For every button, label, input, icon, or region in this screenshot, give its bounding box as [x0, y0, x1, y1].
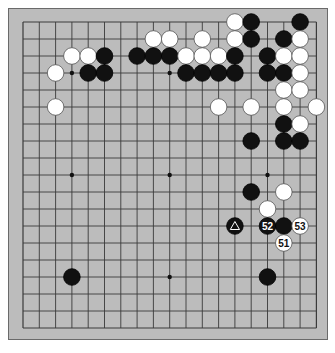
black-stone: [292, 133, 309, 150]
white-stone: [292, 82, 309, 99]
move-number-label: 52: [262, 221, 274, 232]
star-point: [168, 275, 172, 279]
star-point: [168, 173, 172, 177]
star-point: [70, 71, 74, 75]
board-grid: 525351: [1, 1, 335, 353]
white-stone: [194, 48, 211, 65]
black-stone: [276, 65, 293, 82]
black-stone: [243, 133, 260, 150]
white-stone: [80, 48, 97, 65]
white-stone: [210, 99, 227, 116]
white-stone: [308, 99, 325, 116]
black-stone: [145, 48, 162, 65]
star-point: [265, 173, 269, 177]
black-stone: [259, 65, 276, 82]
black-stone: [276, 133, 293, 150]
star-point: [168, 71, 172, 75]
white-stone: [47, 65, 64, 82]
move-number-label: 51: [278, 238, 290, 249]
white-stone: [276, 48, 293, 65]
black-stone: [227, 218, 244, 235]
white-stone: [227, 31, 244, 48]
white-stone: [243, 99, 260, 116]
black-stone: [276, 218, 293, 235]
black-stone: [80, 65, 97, 82]
black-stone: [161, 48, 178, 65]
white-stone: [64, 48, 81, 65]
black-stone: [259, 269, 276, 286]
white-stone: [194, 31, 211, 48]
white-stone: [47, 99, 64, 116]
black-stone: [243, 184, 260, 201]
black-stone: [96, 65, 113, 82]
black-stone: [243, 14, 260, 31]
white-stone: [292, 116, 309, 133]
white-stone: [145, 31, 162, 48]
white-stone: [178, 48, 195, 65]
black-stone: [243, 31, 260, 48]
white-stone: [276, 82, 293, 99]
white-stone: [276, 99, 293, 116]
black-stone: [227, 48, 244, 65]
black-stone: [292, 14, 309, 31]
white-stone: [259, 201, 276, 218]
black-stone: [259, 48, 276, 65]
white-stone: [161, 31, 178, 48]
black-stone: [178, 65, 195, 82]
star-point: [70, 173, 74, 177]
black-stone: [227, 65, 244, 82]
white-stone: [292, 31, 309, 48]
black-stone: [129, 48, 146, 65]
white-stone: [292, 48, 309, 65]
white-stone: [210, 48, 227, 65]
move-number-label: 53: [295, 221, 307, 232]
go-board: 525351: [8, 8, 328, 340]
black-stone: [96, 48, 113, 65]
white-stone: [292, 65, 309, 82]
black-stone: [194, 65, 211, 82]
white-stone: [276, 184, 293, 201]
black-stone: [276, 116, 293, 133]
white-stone: [227, 14, 244, 31]
black-stone: [210, 65, 227, 82]
black-stone: [64, 269, 81, 286]
black-stone: [276, 31, 293, 48]
